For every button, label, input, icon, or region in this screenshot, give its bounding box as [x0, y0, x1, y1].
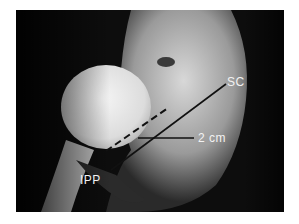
xray-image: SC 2 cm IPP [16, 10, 284, 212]
ipp-label: IPP [80, 174, 101, 186]
xray-graphic [16, 10, 284, 212]
sc-label: SC [227, 76, 245, 88]
distance-label: 2 cm [198, 132, 226, 144]
